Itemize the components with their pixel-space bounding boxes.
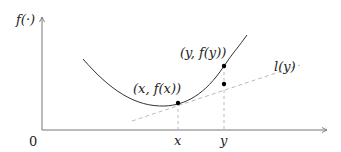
convexity-diagram: f(·) 0 x y (x, f(x)) (y, f(y)) l(y) [0, 0, 341, 152]
diagram-canvas [0, 0, 341, 152]
point-y-label: (y, f(y)) [180, 46, 226, 59]
point-y [222, 64, 226, 68]
x-tick-y: y [220, 134, 227, 147]
y-axis-label: f(·) [16, 13, 35, 26]
point-x-label: (x, f(x)) [133, 82, 181, 95]
point-tangent-y [222, 82, 226, 86]
tangent-label: l(y) [274, 60, 296, 73]
point-x [176, 101, 180, 105]
origin-label: 0 [29, 135, 37, 148]
x-tick-x: x [174, 134, 181, 147]
